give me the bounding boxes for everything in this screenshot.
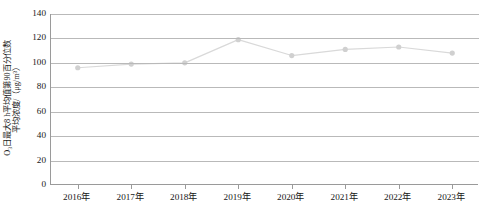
- x-tick-label-2019年: 2019年: [224, 192, 251, 202]
- data-point-2022年: [396, 44, 401, 49]
- x-tick-label-2020年: 2020年: [277, 192, 304, 202]
- x-axis-tick-labels: 2016年2017年2018年2019年2020年2021年2022年2023年: [50, 192, 478, 214]
- gridline-100: [51, 63, 479, 64]
- x-tick-mark-6: [399, 185, 400, 189]
- x-tick-mark-2: [185, 185, 186, 189]
- x-tick-label-2021年: 2021年: [331, 192, 358, 202]
- gridline-40: [51, 136, 479, 137]
- y-tick-label-60: 60: [16, 107, 46, 116]
- y-tick-label-20: 20: [16, 156, 46, 165]
- data-point-2021年: [343, 47, 348, 52]
- y-tick-label-140: 140: [16, 9, 46, 18]
- y-tick-label-100: 100: [16, 58, 46, 67]
- x-tick-mark-3: [238, 185, 239, 189]
- series-markers: [75, 37, 455, 70]
- series-svg: [51, 14, 479, 185]
- x-tick-mark-5: [345, 185, 346, 189]
- x-tick-mark-4: [292, 185, 293, 189]
- x-tick-label-2022年: 2022年: [384, 192, 411, 202]
- x-tick-label-2016年: 2016年: [63, 192, 90, 202]
- y-tick-label-0: 0: [16, 180, 46, 189]
- data-point-2020年: [289, 53, 294, 58]
- data-point-2016年: [75, 65, 80, 70]
- x-tick-mark-0: [78, 185, 79, 189]
- x-tick-label-2017年: 2017年: [117, 192, 144, 202]
- gridline-20: [51, 161, 479, 162]
- data-point-2023年: [450, 50, 455, 55]
- x-tick-label-2018年: 2018年: [170, 192, 197, 202]
- ozone-percentile-line-chart: O₃日最大8 h平均值第90百分位数 平均浓度/（μg/m³） 02040608…: [0, 0, 485, 219]
- y-tick-label-120: 120: [16, 34, 46, 43]
- y-axis-title-line-1-text: O₃日最大8 h平均值第90百分位数: [3, 40, 12, 156]
- y-tick-label-40: 40: [16, 132, 46, 141]
- y-axis-tick-labels: 020406080100120140: [14, 0, 46, 219]
- gridline-60: [51, 112, 479, 113]
- plot-area: [50, 14, 478, 185]
- gridline-120: [51, 38, 479, 39]
- gridline-80: [51, 87, 479, 88]
- x-tick-mark-1: [131, 185, 132, 189]
- gridline-140: [51, 14, 479, 15]
- x-tick-mark-7: [452, 185, 453, 189]
- x-tick-label-2023年: 2023年: [438, 192, 465, 202]
- y-tick-label-80: 80: [16, 83, 46, 92]
